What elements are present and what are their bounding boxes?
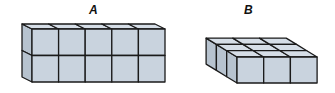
figure-a-prism (22, 24, 165, 82)
figure-b-prism (206, 38, 317, 83)
figure-a-cubes (0, 0, 335, 93)
